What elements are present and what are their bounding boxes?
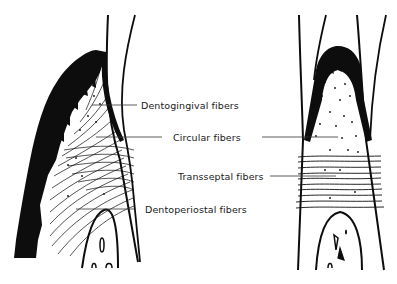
label-dentogingival-fibers: Dentogingival fibers	[141, 101, 239, 111]
bone-marrow-space	[338, 248, 344, 260]
transseptal-fibers	[296, 156, 384, 208]
bone-marrow-space	[328, 264, 332, 269]
left-tooth-outline	[298, 15, 303, 270]
right-tooth-outline	[357, 15, 384, 270]
right-panel	[262, 15, 386, 270]
label-transseptal-fibers: Transseptal fibers	[178, 172, 264, 182]
bone-marrow-space	[92, 264, 96, 269]
alveolar-bone-crest	[82, 210, 118, 268]
left-panel	[14, 15, 162, 268]
bone-marrow-space	[100, 238, 104, 252]
label-circular-fibers: Circular fibers	[173, 133, 241, 143]
label-dentoperiostal-fibers: Dentoperiostal fibers	[145, 205, 247, 215]
alveolar-bone-crest	[316, 212, 362, 270]
bone-marrow-space	[345, 230, 347, 235]
bone-marrow-space	[106, 264, 112, 269]
interdental-col-epithelium	[304, 46, 372, 142]
bone-marrow-space	[334, 235, 338, 250]
right-tooth-outline-inner	[370, 15, 386, 140]
